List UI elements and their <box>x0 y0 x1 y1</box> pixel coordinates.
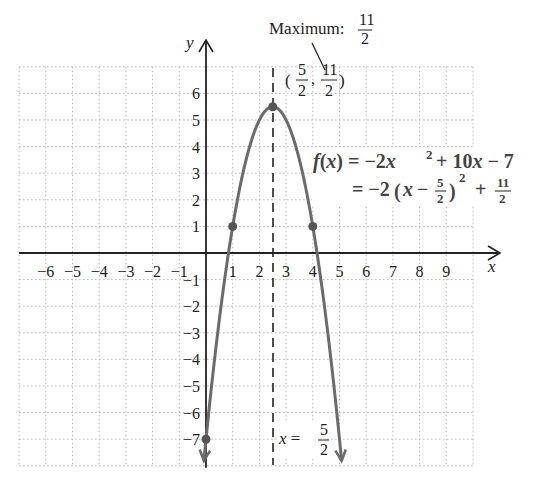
svg-text:f(x) = −2x: f(x) = −2x <box>313 150 396 173</box>
axis-of-symmetry-label: x = 5 2 <box>277 421 329 458</box>
x-axis-label: x <box>487 257 496 276</box>
svg-text:5: 5 <box>320 421 328 438</box>
x-tick-label: −2 <box>144 263 161 280</box>
x-tick-label: 9 <box>442 263 450 280</box>
svg-text:2: 2 <box>499 191 506 206</box>
y-tick-label: −4 <box>183 351 200 368</box>
x-tick-label: 8 <box>416 263 424 280</box>
grid-lines <box>19 67 473 466</box>
x-tick-label: 1 <box>229 263 237 280</box>
y-tick-label: 3 <box>192 165 200 182</box>
svg-text:2: 2 <box>459 170 466 185</box>
svg-text:5: 5 <box>437 175 444 190</box>
svg-text:(: ( <box>285 71 291 90</box>
svg-text:(: ( <box>394 180 401 203</box>
x-tick-label: −4 <box>91 263 108 280</box>
x-tick-label: 7 <box>389 263 397 280</box>
y-axis-label: y <box>184 33 194 52</box>
svg-text:11: 11 <box>497 175 509 190</box>
y-tick-label: 5 <box>192 112 200 129</box>
svg-text:2: 2 <box>325 82 333 99</box>
svg-text:,: , <box>311 70 315 87</box>
svg-text:x: x <box>402 178 413 200</box>
x-tick-label: 4 <box>309 263 317 280</box>
svg-text:x =: x = <box>278 429 300 448</box>
y-tick-label: −2 <box>183 298 200 315</box>
svg-text:2: 2 <box>426 147 433 162</box>
x-tick-label: −3 <box>117 263 134 280</box>
y-tick-label: 4 <box>192 139 200 156</box>
svg-text:2: 2 <box>320 441 328 458</box>
svg-text:11: 11 <box>322 61 337 78</box>
svg-text:2: 2 <box>437 191 444 206</box>
svg-text:= −2: = −2 <box>352 178 390 200</box>
plotted-point <box>202 435 211 444</box>
svg-text:+ 10x − 7: + 10x − 7 <box>436 150 514 172</box>
y-tick-label: −6 <box>183 405 200 422</box>
y-tick-label: 6 <box>192 85 200 102</box>
svg-text:+: + <box>475 178 486 200</box>
svg-text:−: − <box>417 178 428 200</box>
x-tick-label: 3 <box>282 263 290 280</box>
y-tick-label: −3 <box>183 325 200 342</box>
plotted-point <box>228 222 237 231</box>
y-tick-label: 1 <box>192 218 200 235</box>
x-tick-label: 6 <box>362 263 370 280</box>
y-tick-label: −7 <box>183 431 200 448</box>
plotted-point <box>268 102 277 111</box>
parabola-chart: −6−5−4−3−2−1123456789654321−1−2−3−4−5−6−… <box>0 0 546 481</box>
svg-text:2: 2 <box>298 82 306 99</box>
maximum-num: 11 <box>359 11 374 28</box>
svg-text:): ) <box>449 180 456 203</box>
y-tick-label: 2 <box>192 192 200 209</box>
x-tick-label: 2 <box>255 263 263 280</box>
x-tick-label: −6 <box>37 263 54 280</box>
svg-text:5: 5 <box>298 61 306 78</box>
function-equation: f(x) = −2x 2 + 10x − 7 = −2 ( x − 5 2 ) … <box>312 147 532 206</box>
maximum-den: 2 <box>361 30 369 47</box>
svg-text:): ) <box>339 71 345 90</box>
y-tick-label: −1 <box>183 272 200 289</box>
x-tick-label: 5 <box>336 263 344 280</box>
x-tick-label: −5 <box>64 263 81 280</box>
maximum-label: Maximum: <box>269 19 345 38</box>
plotted-point <box>308 222 317 231</box>
y-tick-label: −5 <box>183 378 200 395</box>
